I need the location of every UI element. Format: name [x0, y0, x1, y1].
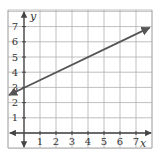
x-tick-label: 2 — [53, 136, 59, 147]
x-tick-label: 4 — [85, 136, 91, 147]
x-tick-label: 1 — [37, 136, 43, 147]
data-line — [9, 28, 150, 95]
y-tick-label: 4 — [12, 67, 18, 78]
y-axis-label: y — [29, 10, 37, 23]
x-tick-label: 6 — [117, 136, 123, 147]
axes — [10, 12, 151, 147]
grid-lines — [8, 10, 152, 148]
y-tick-label: 6 — [12, 36, 18, 47]
y-tick-label: 2 — [12, 97, 18, 108]
x-tick-label: 3 — [69, 136, 75, 147]
x-axis-label: x — [140, 137, 147, 150]
y-tick-label: 5 — [12, 52, 18, 63]
y-tick-label: 7 — [12, 21, 18, 32]
series-line — [9, 28, 150, 95]
coordinate-plane: 12345671234567 x y — [0, 0, 154, 152]
x-tick-label: 5 — [101, 136, 107, 147]
x-tick-label: 7 — [133, 136, 139, 147]
y-tick-label: 1 — [12, 112, 18, 123]
